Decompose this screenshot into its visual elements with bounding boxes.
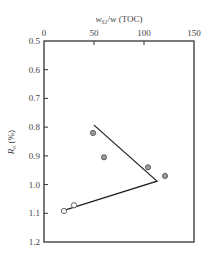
y-axis-ticks: 0.50.60.70.80.91.01.11.2 [29,36,48,247]
y-tick-label: 0.5 [29,36,41,46]
x-tick-label: 100 [137,28,151,38]
y-axis-title-rest: (%) [6,130,16,146]
filled-data-point [101,155,106,160]
x-tick-label: 50 [90,28,100,38]
open-data-point [71,203,76,208]
x-tick-label: 0 [42,28,47,38]
open-data-point [61,208,66,213]
chart: wS1/w (TOC) Ro (%) 050100150 0.50.60.70.… [0,0,208,256]
x-axis-title: wS1/w (TOC) [95,14,142,25]
x-axis-ticks: 050100150 [42,28,202,45]
y-tick-label: 0.8 [29,122,41,132]
y-tick-label: 1.0 [29,180,41,190]
x-tick-label: 150 [187,28,201,38]
y-tick-label: 1.1 [29,208,40,218]
y-tick-label: 0.9 [29,151,41,161]
filled-data-point [145,165,150,170]
y-axis-title: Ro (%) [6,130,17,155]
y-tick-label: 1.2 [29,237,40,247]
trend-line [64,125,157,210]
filled-data-point [162,173,167,178]
y-tick-label: 0.7 [29,93,41,103]
filled-data-point [90,130,95,135]
y-tick-label: 0.6 [29,65,41,75]
x-axis-title-rest: /w (TOC) [107,14,142,24]
trend-polyline [64,125,157,210]
